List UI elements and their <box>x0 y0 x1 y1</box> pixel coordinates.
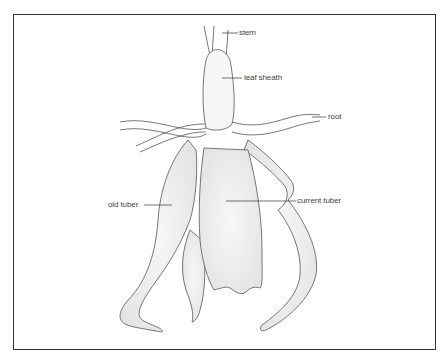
orchid-tuber-drawing <box>0 0 448 364</box>
label-old-tuber: old tuber <box>108 201 138 209</box>
root-left-lower <box>136 124 206 146</box>
label-leaf-sheath: leaf sheath <box>244 74 282 82</box>
label-stem: stem <box>239 29 256 37</box>
old-tuber <box>120 140 197 332</box>
root-left-lower-b <box>140 132 206 152</box>
leaf-sheath <box>203 50 234 131</box>
current-tuber <box>199 148 262 294</box>
label-current-tuber: current tuber <box>297 197 341 205</box>
label-root: root <box>328 113 341 121</box>
root-right-b <box>232 121 320 135</box>
